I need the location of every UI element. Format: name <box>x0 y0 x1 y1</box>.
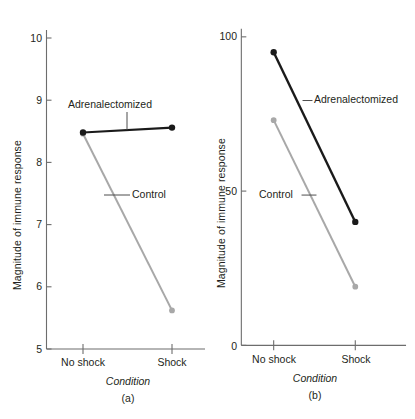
data-point-adrenalectomized-shock <box>352 219 358 225</box>
x-axis-title: Condition <box>48 375 208 387</box>
panel-caption-b: (b) <box>235 389 395 401</box>
y-axis-title: Magnitude of immune response <box>215 138 227 288</box>
series-label-control: Control <box>259 188 293 200</box>
data-point-control-shock <box>169 308 175 314</box>
x-tick-label-shock: Shock <box>316 353 396 365</box>
data-point-control-shock <box>352 284 358 290</box>
data-point-adrenalectomized-shock <box>169 124 175 130</box>
y-axis-ticks <box>47 38 52 349</box>
series-label-control: Control <box>132 188 166 200</box>
x-tick-label-no-shock: No shock <box>234 353 314 365</box>
series-label-adrenalectomized: Adrenalectomized <box>314 93 398 105</box>
data-point-adrenalectomized-no-shock <box>80 129 86 135</box>
x-tick-label-no-shock: No shock <box>43 356 123 368</box>
y-tick-label-5: 5 <box>8 343 42 355</box>
series-label-adrenalectomized: Adrenalectomized <box>68 98 152 110</box>
panel-b: Magnitude of immune response 0 50 100 No… <box>207 0 414 419</box>
y-tick-label-8: 8 <box>8 156 42 168</box>
y-tick-label-10: 10 <box>8 32 42 44</box>
series-line-control <box>274 120 356 287</box>
data-point-adrenalectomized-no-shock <box>270 49 276 55</box>
y-tick-label-0: 0 <box>203 340 237 352</box>
y-tick-label-7: 7 <box>8 218 42 230</box>
panel-a: Magnitude of immune response 5 6 7 8 9 1… <box>0 0 207 419</box>
y-axis-ticks <box>241 37 246 346</box>
y-tick-label-100: 100 <box>203 30 237 42</box>
y-tick-label-6: 6 <box>8 280 42 292</box>
panel-caption-a: (a) <box>48 392 208 404</box>
series-line-control <box>83 134 172 311</box>
y-tick-label-50: 50 <box>203 185 237 197</box>
interaction-plot-figure: Magnitude of immune response 5 6 7 8 9 1… <box>0 0 415 419</box>
data-point-control-no-shock <box>271 117 277 123</box>
x-axis-title: Condition <box>235 372 395 384</box>
x-tick-label-shock: Shock <box>132 356 212 368</box>
y-tick-label-9: 9 <box>8 94 42 106</box>
